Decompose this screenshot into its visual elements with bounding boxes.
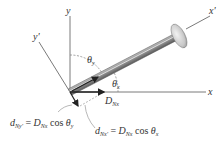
projection-arc-right <box>85 105 95 128</box>
equation-d-Nx-prime: dNx' = DNx cos θx <box>95 125 159 137</box>
projection-line <box>80 92 104 106</box>
rod <box>68 33 178 95</box>
component-arrow-x-prime <box>72 77 98 91</box>
theta-x-label: θx <box>112 78 120 90</box>
equation-d-Ny-prime: dNy' = DNx cos θy <box>10 117 74 129</box>
x-axis-label: x <box>207 86 213 97</box>
diagram-canvas: y y' x x' θy θx DNx dNy' = DNx cos θy dN… <box>0 0 219 152</box>
theta-y-label: θy <box>87 54 95 66</box>
y-prime-axis-label: y' <box>32 31 40 42</box>
force-label-DNx: DNx <box>104 95 119 107</box>
y-prime-axis <box>39 42 70 92</box>
x-prime-axis <box>186 16 210 29</box>
x-prime-axis-label: x' <box>208 5 216 16</box>
projection-arc-left <box>58 105 72 112</box>
theta-y-arc <box>70 55 102 73</box>
y-axis-label: y <box>65 5 71 16</box>
